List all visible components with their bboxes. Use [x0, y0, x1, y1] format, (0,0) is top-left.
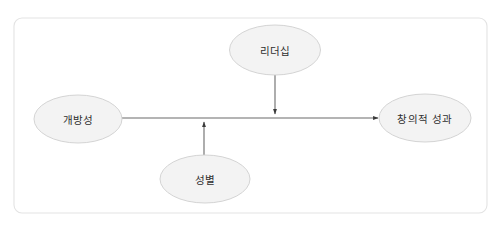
node-leadership[interactable]: 리더십: [230, 25, 321, 75]
node-gender-label: 성별: [195, 174, 216, 186]
node-creative-performance[interactable]: 창의적 성과: [379, 94, 471, 142]
node-leadership-label: 리더십: [260, 45, 291, 57]
node-creative-performance-label: 창의적 성과: [397, 113, 452, 125]
node-gender[interactable]: 성별: [160, 155, 250, 203]
diagram-canvas: 리더십 개방성 창의적 성과 성별: [0, 0, 500, 229]
research-model-diagram: 리더십 개방성 창의적 성과 성별: [0, 0, 500, 229]
node-openness[interactable]: 개방성: [34, 95, 122, 143]
node-openness-label: 개방성: [63, 114, 94, 126]
